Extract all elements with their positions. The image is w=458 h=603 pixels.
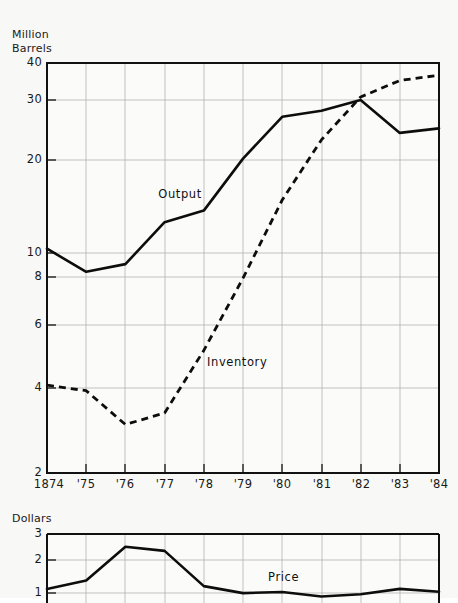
xtick-80: '80 — [262, 477, 302, 491]
top-ytick-40: 40 — [6, 55, 42, 69]
output-series-label: Output — [158, 187, 202, 201]
xtick-78: '78 — [184, 477, 224, 491]
xtick-1874: 1874 — [27, 477, 71, 491]
top-ytick-20: 20 — [6, 152, 42, 166]
top-ytick-30: 30 — [6, 92, 42, 106]
price-series-label: Price — [268, 570, 299, 584]
top-ytick-10: 10 — [6, 245, 42, 259]
top-chart-plot — [0, 0, 458, 500]
xtick-82: '82 — [341, 477, 381, 491]
inventory-series-label: Inventory — [207, 355, 267, 369]
xtick-84: '84 — [419, 477, 458, 491]
top-ytick-6: 6 — [6, 317, 42, 331]
xtick-79: '79 — [223, 477, 263, 491]
top-ytick-4: 4 — [6, 380, 42, 394]
bottom-chart-plot — [0, 505, 458, 603]
xtick-77: '77 — [145, 477, 185, 491]
bottom-ytick-3: 3 — [6, 526, 42, 540]
xtick-81: '81 — [302, 477, 342, 491]
bottom-ytick-1: 1 — [6, 585, 42, 599]
xtick-76: '76 — [105, 477, 145, 491]
bottom-ytick-2: 2 — [6, 552, 42, 566]
xtick-83: '83 — [380, 477, 420, 491]
xtick-75: '75 — [66, 477, 106, 491]
top-ytick-8: 8 — [6, 269, 42, 283]
